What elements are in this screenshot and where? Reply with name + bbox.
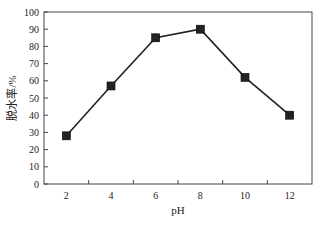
- line-chart: 0102030405060708090100 24681012 pH 脱水率/%: [0, 0, 319, 226]
- y-axis-title: 脱水率/%: [5, 75, 18, 120]
- y-tick-label: 80: [29, 41, 39, 52]
- square-marker: [152, 34, 160, 42]
- square-marker: [107, 82, 115, 90]
- plot-area: [44, 12, 312, 184]
- x-tick-label: 4: [109, 190, 114, 201]
- square-marker: [196, 25, 204, 33]
- y-tick-label: 90: [29, 24, 39, 35]
- y-tick-label: 0: [34, 179, 39, 190]
- y-tick-label: 60: [29, 75, 39, 86]
- y-tick-label: 50: [29, 93, 39, 104]
- x-tick-label: 6: [153, 190, 158, 201]
- series-line: [66, 29, 289, 136]
- square-marker: [241, 73, 249, 81]
- x-tick-label: 10: [240, 190, 250, 201]
- square-marker: [286, 111, 294, 119]
- data-series: [62, 25, 293, 140]
- y-tick-label: 10: [29, 161, 39, 172]
- square-marker: [62, 132, 70, 140]
- plot-border: [44, 12, 312, 184]
- y-tick-label: 100: [24, 7, 39, 18]
- y-tick-label: 40: [29, 110, 39, 121]
- y-tick-label: 70: [29, 58, 39, 69]
- y-tick-label: 30: [29, 127, 39, 138]
- y-tick-label: 20: [29, 144, 39, 155]
- x-tick-label: 12: [285, 190, 295, 201]
- x-tick-label: 2: [64, 190, 69, 201]
- x-axis-title: pH: [171, 204, 185, 216]
- x-tick-label: 8: [198, 190, 203, 201]
- x-axis: 24681012: [64, 180, 295, 201]
